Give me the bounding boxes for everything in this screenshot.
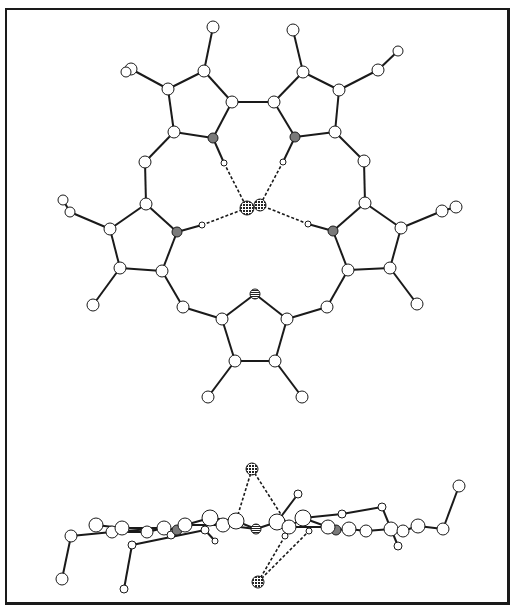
carbon-atom — [202, 510, 218, 526]
carbon-atom — [226, 96, 238, 108]
carbon-atom — [333, 84, 345, 96]
nitrogen-atom-striped — [251, 524, 261, 534]
chloride-atom — [254, 199, 266, 211]
carbon-atom — [329, 126, 341, 138]
top-atoms — [58, 21, 462, 403]
carbon-atom — [178, 518, 192, 532]
hydrogen-atom — [201, 526, 209, 534]
covalent-bond — [443, 486, 459, 529]
hydrogen-atom — [282, 533, 288, 539]
carbon-atom — [56, 573, 68, 585]
side-view-structure — [56, 463, 465, 593]
carbon-atom — [281, 313, 293, 325]
covalent-bond — [110, 204, 146, 229]
side-covalent-bonds — [62, 486, 459, 589]
carbon-atom — [229, 355, 241, 367]
covalent-bond — [204, 27, 213, 71]
carbon-atom — [321, 520, 335, 534]
covalent-bond — [62, 536, 71, 579]
hydrogen-atom — [306, 528, 312, 534]
carbon-atom — [58, 195, 68, 205]
carbon-atom — [453, 480, 465, 492]
carbon-atom — [114, 262, 126, 274]
carbon-atom — [395, 222, 407, 234]
carbon-atom — [216, 313, 228, 325]
molecular-structure-diagram — [0, 0, 516, 611]
hydrogen-bond — [260, 205, 308, 224]
nitrogen-atom-striped — [250, 289, 260, 299]
top-covalent-bonds — [63, 27, 456, 397]
carbon-atom — [177, 301, 189, 313]
hydrogen-atom — [212, 538, 218, 544]
chloride-atom — [252, 576, 264, 588]
carbon-atom — [359, 197, 371, 209]
carbon-atom — [295, 510, 311, 526]
covalent-bond — [275, 319, 287, 361]
carbon-atom — [207, 21, 219, 33]
carbon-atom — [384, 262, 396, 274]
nitrogen-atom — [290, 132, 300, 142]
carbon-atom — [115, 521, 129, 535]
carbon-atom — [121, 67, 131, 77]
covalent-bond — [390, 268, 417, 304]
carbon-atom — [128, 541, 136, 549]
hydrogen-atom — [280, 159, 286, 165]
carbon-atom — [65, 530, 77, 542]
carbon-atom — [342, 264, 354, 276]
carbon-atom — [65, 207, 75, 217]
carbon-atom — [156, 265, 168, 277]
covalent-bond — [70, 212, 110, 229]
covalent-bond — [222, 319, 235, 361]
carbon-atom — [89, 518, 103, 532]
covalent-bond — [124, 545, 132, 589]
hydrogen-atom — [221, 160, 227, 166]
carbon-atom — [268, 96, 280, 108]
carbon-atom — [397, 525, 409, 537]
carbon-atom — [393, 46, 403, 56]
carbon-atom — [411, 519, 425, 533]
carbon-atom — [287, 24, 299, 36]
covalent-bond — [342, 507, 382, 514]
carbon-atom — [269, 355, 281, 367]
carbon-atom — [394, 542, 402, 550]
carbon-atom — [228, 513, 244, 529]
carbon-atom — [104, 223, 116, 235]
carbon-atom — [294, 490, 302, 498]
covalent-bond — [168, 89, 174, 132]
covalent-bond — [339, 70, 378, 90]
carbon-atom — [168, 126, 180, 138]
hydrogen-bond — [224, 163, 247, 208]
carbon-atom — [450, 201, 462, 213]
carbon-atom — [436, 205, 448, 217]
nitrogen-atom — [208, 133, 218, 143]
carbon-atom — [120, 585, 128, 593]
carbon-atom — [338, 510, 346, 518]
carbon-atom — [140, 198, 152, 210]
carbon-atom — [198, 65, 210, 77]
covalent-bond — [275, 361, 302, 397]
carbon-atom — [372, 64, 384, 76]
carbon-atom — [321, 301, 333, 313]
carbon-atom — [437, 523, 449, 535]
carbon-atom — [87, 299, 99, 311]
carbon-atom — [282, 520, 296, 534]
carbon-atom — [139, 156, 151, 168]
covalent-bond — [208, 361, 235, 397]
hydrogen-atom — [199, 222, 205, 228]
covalent-bond — [93, 268, 120, 305]
carbon-atom — [297, 66, 309, 78]
hydrogen-atom — [305, 221, 311, 227]
carbon-atom — [378, 503, 386, 511]
chloride-atom — [240, 201, 254, 215]
covalent-bond — [365, 203, 401, 228]
hydrogen-bond — [260, 162, 283, 205]
carbon-atom — [358, 155, 370, 167]
top-view-structure — [58, 21, 462, 403]
covalent-bond — [401, 211, 442, 228]
nitrogen-atom — [172, 227, 182, 237]
chloride-atom — [246, 463, 258, 475]
top-hydrogen-bonds — [202, 162, 308, 225]
carbon-atom — [411, 298, 423, 310]
nitrogen-atom — [328, 226, 338, 236]
carbon-atom — [342, 522, 356, 536]
